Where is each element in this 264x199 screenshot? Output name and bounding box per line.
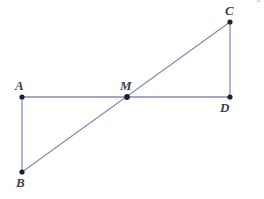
point-M <box>124 94 130 100</box>
image-credit-text: Banco de imagens/Arquivo da editora <box>254 0 264 14</box>
point-B <box>19 169 24 174</box>
point-D <box>227 94 232 99</box>
point-A <box>19 94 24 99</box>
point-label-B: B <box>16 176 25 189</box>
geometry-figure: A B C D M Banco de imagens/Arquivo da ed… <box>0 0 264 199</box>
point-label-M: M <box>120 79 132 92</box>
point-label-C: C <box>225 4 234 17</box>
point-label-A: A <box>15 79 24 92</box>
point-C <box>227 19 232 24</box>
point-label-D: D <box>220 101 229 114</box>
